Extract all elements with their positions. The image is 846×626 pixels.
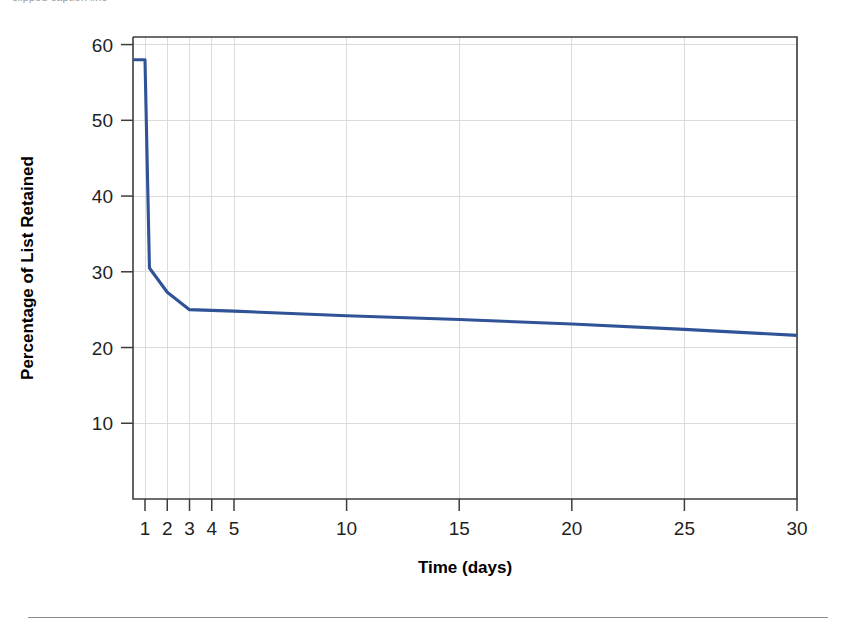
y-tick-labels: 102030405060 xyxy=(92,35,113,435)
figure-page: clipped caption line 123451015202530 102… xyxy=(0,0,846,626)
x-tick-label: 25 xyxy=(674,518,695,539)
x-tick-label: 15 xyxy=(449,518,470,539)
x-tick-label: 3 xyxy=(184,518,195,539)
retention-chart: 123451015202530 102030405060 Time (days)… xyxy=(0,0,846,600)
y-tick-label: 10 xyxy=(92,413,113,434)
x-tick-label: 30 xyxy=(786,518,807,539)
plot-frame xyxy=(133,37,797,499)
x-axis-title: Time (days) xyxy=(418,558,512,577)
grid-lines xyxy=(133,37,797,499)
y-tick-label: 60 xyxy=(92,35,113,56)
x-tick-label: 4 xyxy=(206,518,217,539)
page-divider-rule xyxy=(28,617,828,618)
y-tick-label: 50 xyxy=(92,110,113,131)
chart-svg: 123451015202530 102030405060 Time (days)… xyxy=(0,0,846,600)
x-tick-labels: 123451015202530 xyxy=(140,518,808,539)
data-series xyxy=(133,60,797,336)
retention-line xyxy=(133,60,797,336)
y-tick-marks xyxy=(121,45,133,424)
x-tick-label: 20 xyxy=(561,518,582,539)
x-tick-marks xyxy=(145,499,797,511)
x-tick-label: 5 xyxy=(229,518,240,539)
x-tick-label: 2 xyxy=(162,518,173,539)
y-tick-label: 20 xyxy=(92,338,113,359)
y-axis-title: Percentage of List Retained xyxy=(18,156,37,380)
x-tick-label: 1 xyxy=(140,518,151,539)
y-tick-label: 40 xyxy=(92,186,113,207)
x-tick-label: 10 xyxy=(336,518,357,539)
y-tick-label: 30 xyxy=(92,262,113,283)
